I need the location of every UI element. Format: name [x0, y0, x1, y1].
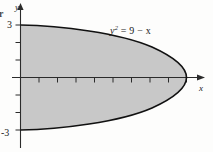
y-axis-label: y — [15, 3, 19, 12]
x-axis-label: x — [199, 84, 203, 93]
plot-canvas — [0, 0, 213, 152]
y-tick-label-3: 3 — [7, 20, 12, 30]
equation-right-side: = 9 − x — [118, 25, 151, 36]
margin-glyph: r — [0, 9, 3, 19]
x-axis-arrow-icon — [197, 74, 205, 80]
curve-equation-label: y2 = 9 − x — [110, 26, 151, 36]
y-tick-label-negative-3: -3 — [1, 128, 9, 138]
parabola-figure: r y x 3 -3 y2 = 9 − x — [0, 0, 213, 152]
